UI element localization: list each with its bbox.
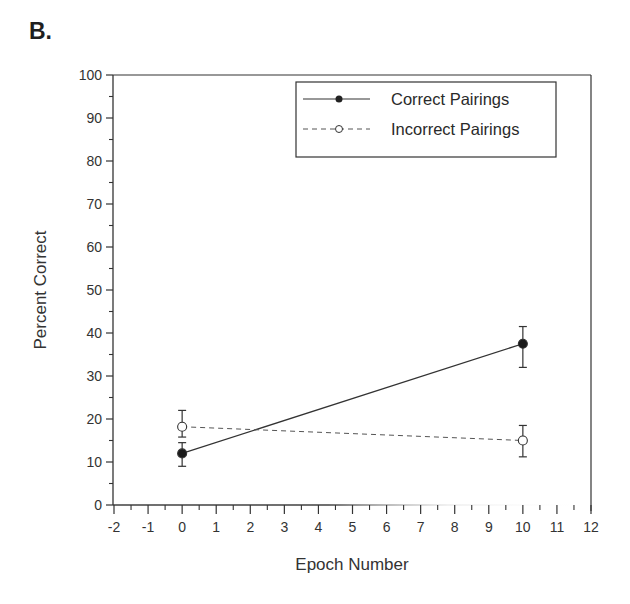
data-series: [178, 327, 528, 467]
x-tick-label: 12: [583, 519, 599, 535]
x-tick-label: 3: [280, 519, 288, 535]
y-axis: 0102030405060708090100: [79, 67, 113, 513]
y-tick-label: 80: [86, 153, 102, 169]
x-tick-label: 7: [417, 519, 425, 535]
series-line: [182, 344, 523, 454]
x-tick-label: 9: [485, 519, 493, 535]
series-incorrect-pairings: [178, 410, 528, 456]
x-tick-label: 11: [550, 519, 565, 535]
x-tick-label: 4: [315, 519, 323, 535]
y-tick-label: 30: [86, 368, 102, 384]
y-tick-label: 20: [86, 411, 102, 427]
filled-circle-icon: [336, 96, 343, 103]
x-tick-label: 1: [212, 519, 220, 535]
x-tick-label: -2: [108, 519, 121, 535]
open-circle-icon: [336, 126, 343, 133]
filled-circle-marker: [518, 339, 527, 348]
x-tick-label: 6: [383, 519, 391, 535]
y-tick-label: 0: [94, 497, 102, 513]
y-axis-label: Percent Correct: [31, 230, 50, 349]
x-tick-label: -1: [142, 519, 155, 535]
series-correct-pairings: [178, 327, 528, 467]
y-tick-label: 60: [86, 239, 102, 255]
x-tick-label: 8: [451, 519, 459, 535]
legend: Correct Pairings Incorrect Pairings: [296, 82, 556, 157]
legend-label: Incorrect Pairings: [391, 120, 519, 138]
x-tick-label: 10: [515, 519, 531, 535]
y-tick-label: 10: [86, 454, 102, 470]
y-tick-label: 90: [86, 110, 102, 126]
legend-label: Correct Pairings: [391, 90, 509, 108]
x-tick-label: 5: [349, 519, 357, 535]
open-circle-marker: [178, 422, 187, 431]
y-tick-label: 40: [86, 325, 102, 341]
x-tick-label: 0: [178, 519, 186, 535]
x-tick-label: 2: [246, 519, 254, 535]
y-tick-label: 100: [79, 67, 103, 83]
line-chart: 0102030405060708090100 -2-10123456789101…: [0, 0, 630, 604]
y-tick-label: 50: [86, 282, 102, 298]
filled-circle-marker: [178, 449, 187, 458]
open-circle-marker: [518, 436, 527, 445]
x-axis-label: Epoch Number: [295, 555, 409, 574]
y-tick-label: 70: [86, 196, 102, 212]
x-axis: -2-10123456789101112: [108, 505, 599, 535]
series-line: [182, 427, 523, 441]
